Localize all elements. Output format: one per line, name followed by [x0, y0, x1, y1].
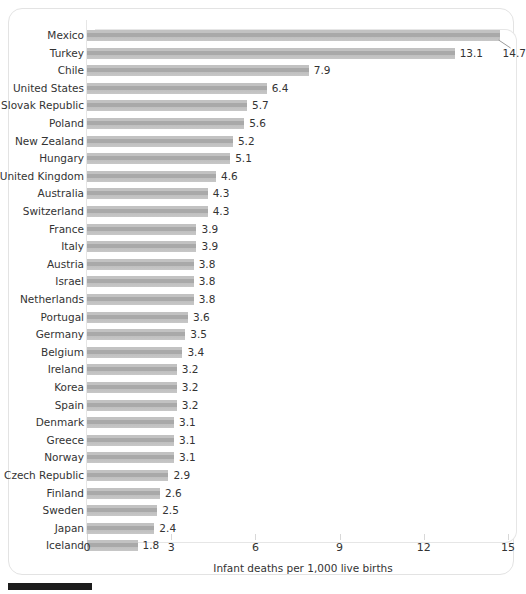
category-label: Chile	[58, 64, 84, 77]
bar-row: Sweden2.5	[0, 502, 522, 520]
bar-row: Korea3.2	[0, 379, 522, 397]
bar-row: Poland5.6	[0, 115, 522, 133]
x-tick-mark	[171, 534, 172, 540]
category-label: Austria	[47, 258, 84, 271]
category-label: Belgium	[41, 346, 84, 359]
bar-row: Switzerland4.3	[0, 203, 522, 221]
bar-row: Iceland1.8	[0, 537, 522, 555]
bar-value-label: 5.2	[238, 135, 255, 148]
x-tick-label: 3	[168, 541, 175, 555]
bar	[87, 488, 160, 499]
bar	[87, 452, 174, 463]
bar-row: Denmark3.1	[0, 414, 522, 432]
x-axis-title: Infant deaths per 1,000 live births	[0, 561, 522, 575]
bar-value-label: 3.2	[182, 363, 199, 376]
bar-value-label: 3.4	[187, 346, 204, 359]
bar	[87, 241, 196, 252]
bar-row: Germany3.5	[0, 326, 522, 344]
category-label: Finland	[46, 487, 84, 500]
category-label: Korea	[54, 381, 84, 394]
x-tick-label: 0	[84, 541, 91, 555]
bar	[87, 417, 174, 428]
bar-value-label: 3.8	[199, 258, 216, 271]
bar-value-label: 3.2	[182, 399, 199, 412]
bar	[87, 540, 138, 551]
category-label: France	[49, 223, 84, 236]
bar-value-label: 3.9	[201, 240, 218, 253]
bar	[87, 136, 233, 147]
bar-value-label: 13.1	[460, 47, 483, 60]
category-label: Denmark	[36, 416, 84, 429]
bar	[87, 224, 196, 235]
bar-row: United Kingdom4.6	[0, 168, 522, 186]
bar-value-label: 5.1	[235, 152, 252, 165]
bar-row: Israel3.8	[0, 273, 522, 291]
bar-value-label: 2.9	[173, 469, 190, 482]
bar-row: New Zealand5.2	[0, 133, 522, 151]
bar-value-label: 3.8	[199, 293, 216, 306]
bar	[87, 48, 455, 59]
bar-value-label: 4.6	[221, 170, 238, 183]
bar	[87, 153, 230, 164]
bar-row: Ireland3.2	[0, 361, 522, 379]
bar-row: Austria3.8	[0, 256, 522, 274]
bar-row: Norway3.1	[0, 449, 522, 467]
bar	[87, 435, 174, 446]
x-tick-label: 15	[501, 541, 515, 555]
x-tick-mark	[424, 534, 425, 540]
bar-value-label: 3.1	[179, 434, 196, 447]
x-tick-mark	[255, 534, 256, 540]
category-label: Australia	[38, 187, 84, 200]
bar-value-label: 2.5	[162, 504, 179, 517]
bar	[87, 382, 177, 393]
bar	[87, 100, 247, 111]
x-axis-title-text: Infant deaths per 1,000 live births	[213, 561, 392, 575]
bar	[87, 400, 177, 411]
category-label: Hungary	[39, 152, 84, 165]
bar	[87, 276, 194, 287]
category-label: Slovak Republic	[1, 99, 84, 112]
bar-row: Hungary5.1	[0, 150, 522, 168]
bar-value-label: 5.7	[252, 99, 269, 112]
bar-value-label: 1.8	[143, 539, 160, 552]
category-label: Czech Republic	[4, 469, 84, 482]
bar-row: Italy3.9	[0, 238, 522, 256]
x-tick-mark	[87, 534, 88, 540]
category-label: Turkey	[50, 47, 84, 60]
bar	[87, 30, 500, 41]
x-tick-label: 12	[417, 541, 431, 555]
category-label: Spain	[55, 399, 84, 412]
bar-row: Finland2.6	[0, 485, 522, 503]
category-label: Norway	[44, 451, 84, 464]
category-label: Germany	[36, 328, 84, 341]
bar	[87, 312, 188, 323]
x-tick-mark	[508, 534, 509, 540]
category-label: Netherlands	[20, 293, 84, 306]
category-label: Iceland	[46, 539, 84, 552]
bar	[87, 188, 208, 199]
bar-row: France3.9	[0, 221, 522, 239]
category-label: Japan	[55, 522, 84, 535]
bar-row: Czech Republic2.9	[0, 467, 522, 485]
bar-row: Portugal3.6	[0, 309, 522, 327]
bar-row: Slovak Republic5.7	[0, 97, 522, 115]
bar-row: Mexico14.7	[0, 27, 522, 45]
bar	[87, 206, 208, 217]
category-label: New Zealand	[15, 135, 84, 148]
category-label: Sweden	[43, 504, 85, 517]
bar-value-label: 3.8	[199, 275, 216, 288]
bar-row: Japan2.4	[0, 520, 522, 538]
bar	[87, 364, 177, 375]
bar	[87, 118, 244, 129]
bar-row: Spain3.2	[0, 397, 522, 415]
bar-value-label: 4.3	[213, 205, 230, 218]
x-tick-label: 9	[336, 541, 343, 555]
x-tick-mark	[340, 534, 341, 540]
bar	[87, 259, 194, 270]
bar-row: Greece3.1	[0, 432, 522, 450]
bar-value-label: 3.6	[193, 311, 210, 324]
bar	[87, 329, 185, 340]
bar	[87, 505, 157, 516]
category-label: Mexico	[47, 29, 84, 42]
bar-row: Netherlands3.8	[0, 291, 522, 309]
